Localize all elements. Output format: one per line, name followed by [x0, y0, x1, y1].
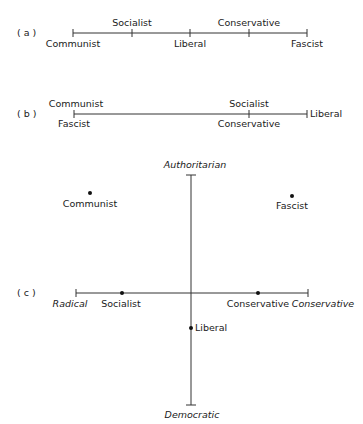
label-socialist: Socialist	[112, 17, 152, 28]
label-conservative: Conservative	[218, 118, 281, 129]
point-conservative	[256, 291, 260, 295]
panel-a: ( a ) Socialist Conservative Communist L…	[17, 17, 323, 49]
panel-c: ( c ) Authoritarian Democratic Radical C…	[17, 159, 354, 420]
label-conservative: Conservative	[218, 17, 281, 28]
axis-label-authoritarian: Authoritarian	[163, 159, 227, 170]
point-socialist	[120, 291, 124, 295]
axis-label-radical: Radical	[53, 298, 88, 309]
panel-c-label: ( c )	[17, 287, 36, 298]
point-communist	[88, 191, 92, 195]
political-spectrum-diagram: ( a ) Socialist Conservative Communist L…	[0, 0, 363, 424]
panel-b-label: ( b )	[17, 108, 36, 119]
axis-label-conservative: Conservative	[292, 298, 355, 309]
point-label-liberal: Liberal	[195, 322, 227, 333]
point-label-conservative: Conservative	[227, 298, 290, 309]
label-liberal: Liberal	[310, 108, 342, 119]
label-fascist: Fascist	[291, 38, 323, 49]
label-communist: Communist	[49, 98, 104, 109]
label-socialist: Socialist	[229, 98, 269, 109]
panel-b: ( b ) Communist Socialist Fascist Conser…	[17, 98, 342, 129]
panel-a-label: ( a )	[17, 27, 36, 38]
point-label-socialist: Socialist	[101, 298, 141, 309]
point-label-fascist: Fascist	[276, 200, 308, 211]
label-liberal: Liberal	[174, 38, 206, 49]
label-fascist: Fascist	[58, 118, 90, 129]
point-label-communist: Communist	[63, 198, 118, 209]
point-fascist	[290, 194, 294, 198]
point-liberal	[189, 326, 193, 330]
label-communist: Communist	[46, 38, 101, 49]
axis-label-democratic: Democratic	[165, 409, 221, 420]
